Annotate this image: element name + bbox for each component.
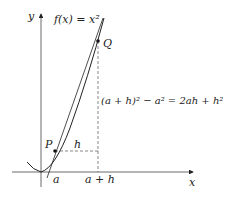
- point-p: [53, 149, 57, 153]
- point-q-label: Q: [103, 37, 112, 50]
- point-q: [96, 39, 100, 43]
- x-axis-label: x: [189, 176, 196, 189]
- tick-a-plus-h-label: a + h: [85, 173, 115, 186]
- parabola-curve: [27, 18, 104, 172]
- y-axis-label: y: [27, 10, 35, 23]
- point-p-label: P: [44, 138, 53, 151]
- vertical-difference-label: (a + h)² − a² = 2ah + h²: [101, 95, 223, 106]
- secant-line: [47, 18, 103, 178]
- tick-a-label: a: [53, 173, 60, 186]
- h-label: h: [74, 138, 81, 151]
- diagram-canvas: y x f(x) = x² Q P h (a + h)² − a² = 2ah …: [0, 0, 225, 204]
- function-label: f(x) = x²: [53, 13, 100, 26]
